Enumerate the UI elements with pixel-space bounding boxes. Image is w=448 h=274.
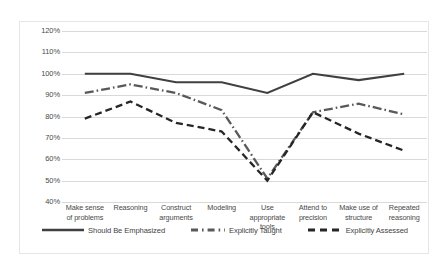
legend-item[interactable]: Explicitly Taught [191,226,282,235]
y-axis-tick-label: 90% [26,91,60,99]
x-axis-tick-line: Reasoning [109,203,153,213]
y-axis-tick-label: 100% [26,70,60,78]
y-axis-tick-label: 110% [26,48,60,56]
x-axis-tick-line: Attend to [291,203,335,213]
legend-label: Explicitly Taught [229,226,282,235]
series-line [85,74,404,93]
x-axis-tick-line: Make use of [337,203,381,213]
y-axis-tick-label: 80% [26,113,60,121]
legend-swatch [191,226,225,234]
x-axis-tick-line: Repeated [382,203,426,213]
y-axis-tick-label: 120% [26,27,60,35]
y-axis-tick-label: 40% [26,198,60,206]
chart-container: 120%110%100%90%80%70%60%50%40% Make sens… [19,21,429,254]
y-axis-tick-label: 70% [26,134,60,142]
chart-legend: Should Be EmphasizedExplicitly TaughtExp… [20,219,430,241]
y-axis-tick-label: 50% [26,177,60,185]
x-axis-tick-line: Construct [154,203,198,213]
legend-swatch [308,226,342,234]
x-axis-tick-line: Use [246,203,290,213]
legend-item[interactable]: Explicitly Assessed [308,226,408,235]
legend-swatch [42,226,84,234]
series-line [85,102,404,181]
x-axis-tick-line: Make sense [63,203,107,213]
legend-label: Should Be Emphasized [88,226,165,235]
plot-area: 120%110%100%90%80%70%60%50%40% Make sens… [20,22,430,255]
legend-item[interactable]: Should Be Emphasized [42,226,165,235]
y-axis-tick-label: 60% [26,155,60,163]
x-axis-tick-line: Modeling [200,203,244,213]
legend-label: Explicitly Assessed [346,226,408,235]
